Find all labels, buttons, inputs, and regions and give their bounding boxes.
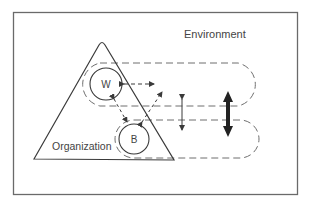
w-b-dashed-arrow bbox=[114, 99, 127, 122]
organization-label: Organization bbox=[52, 140, 112, 152]
b-outward-dashed-arrow bbox=[142, 92, 162, 122]
node-b-label: B bbox=[131, 134, 138, 145]
node-w: W bbox=[90, 68, 122, 100]
node-w-label: W bbox=[101, 79, 111, 90]
outer-frame bbox=[14, 13, 298, 195]
environment-label: Environment bbox=[184, 28, 246, 40]
node-b: B bbox=[119, 124, 149, 154]
diagram-canvas: Environment Organization W B bbox=[0, 0, 309, 205]
bold-vertical-arrow bbox=[223, 91, 233, 137]
